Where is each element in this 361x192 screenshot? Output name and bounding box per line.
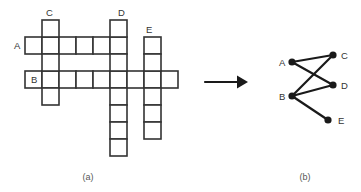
crossword-cell[interactable] (59, 37, 76, 54)
grid-label-b: B (31, 74, 37, 85)
crossword-cell[interactable] (42, 20, 59, 37)
graph-node-a[interactable] (288, 58, 295, 65)
crossword-cell[interactable] (93, 71, 110, 88)
graph-edges (292, 55, 333, 120)
graph-node-a-label: A (279, 57, 286, 68)
figure-root: ABCDE ABCDE (a) (b) (0, 0, 361, 192)
graph-node-e-label: E (338, 115, 344, 126)
crossword-cell[interactable] (110, 20, 127, 37)
crossword-cell[interactable] (42, 37, 59, 54)
graph-node-b[interactable] (288, 92, 295, 99)
crossword-cell[interactable] (144, 71, 161, 88)
graph-node-b-label: B (279, 91, 285, 102)
graph-node-c-label: C (341, 50, 348, 61)
grid-label-c: C (46, 7, 53, 18)
crossword-cell[interactable] (110, 105, 127, 122)
crossword-cell[interactable] (59, 71, 76, 88)
graph-node-d-label: D (341, 80, 348, 91)
caption-panel-b: (b) (300, 172, 311, 182)
crossword-cell[interactable] (110, 71, 127, 88)
crossword-cell[interactable] (42, 71, 59, 88)
crossword-cell[interactable] (110, 54, 127, 71)
crossword-cell[interactable] (110, 139, 127, 156)
crossword-cell[interactable] (127, 71, 144, 88)
crossword-cell[interactable] (25, 37, 42, 54)
graph-node-e[interactable] (324, 116, 331, 123)
crossword-cell[interactable] (76, 71, 93, 88)
crossword-cell[interactable] (42, 88, 59, 105)
caption-panel-a: (a) (83, 172, 94, 182)
crossword-cell[interactable] (110, 37, 127, 54)
graph-edge-b-e (292, 96, 328, 120)
crossword-cell[interactable] (144, 54, 161, 71)
crossword-cell[interactable] (144, 122, 161, 139)
crossword-cell[interactable] (42, 54, 59, 71)
crossword-cell[interactable] (110, 88, 127, 105)
transform-arrow-icon (205, 76, 248, 89)
graph-node-c[interactable] (329, 51, 336, 58)
graph-edge-a-d (292, 62, 333, 85)
crossword-grid (25, 20, 178, 156)
crossword-cell[interactable] (76, 37, 93, 54)
arrow-head-icon (237, 76, 248, 89)
graph-node-d[interactable] (329, 81, 336, 88)
grid-label-d: D (118, 7, 125, 18)
crossword-cell[interactable] (144, 88, 161, 105)
crossword-cell[interactable] (161, 71, 178, 88)
grid-label-a: A (14, 40, 21, 51)
crossword-cell[interactable] (144, 105, 161, 122)
crossword-cell[interactable] (110, 122, 127, 139)
grid-label-e: E (146, 24, 152, 35)
crossword-cell[interactable] (144, 37, 161, 54)
crossword-cell[interactable] (93, 37, 110, 54)
